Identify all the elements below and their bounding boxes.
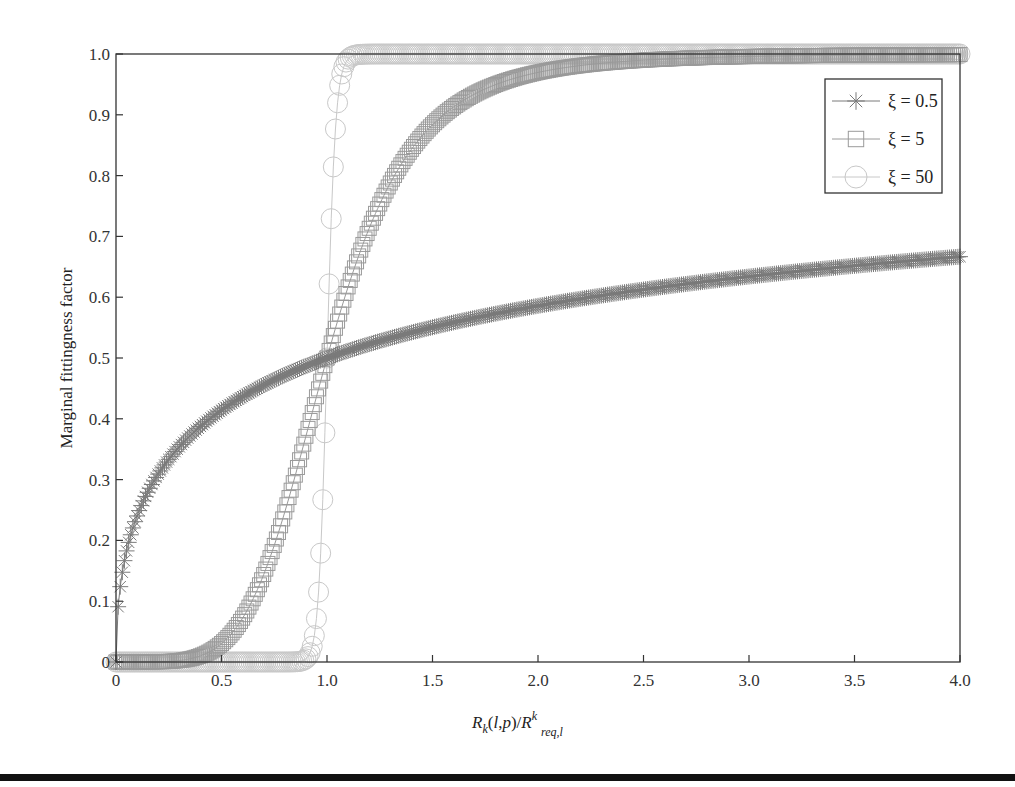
data-point-asterisk [123,527,139,543]
x-axis-title: Rk(l,p)/Rkreq,l [471,709,564,739]
series-xi-0_5 [108,249,968,670]
series-line [116,257,960,662]
x-tick-label: 0 [112,671,121,690]
x-tick-label: 3.5 [844,671,865,690]
x-tick-label: 4.0 [949,671,970,690]
y-axis-title: Marginal fittingness factor [57,267,76,448]
data-point-asterisk [228,392,244,408]
data-point-asterisk [112,579,128,595]
y-tick-label: 0.9 [89,106,110,125]
y-tick-label: 0.1 [89,592,110,611]
y-tick-label: 0.2 [89,531,110,550]
data-point-asterisk [230,391,246,407]
y-tick-label: 0.5 [89,349,110,368]
legend: ξ = 0.5ξ = 5ξ = 50 [825,79,942,193]
legend-label: ξ = 5 [888,129,924,149]
x-tick-label: 3.0 [738,671,759,690]
y-tick-label: 0.3 [89,471,110,490]
y-tick-label: 0.6 [89,288,110,307]
x-title-sup-k: k [532,709,538,723]
x-title-paren-close: )/ [511,713,522,732]
y-tick-label: 0.8 [89,167,110,186]
data-point-asterisk [135,493,151,509]
legend-label: ξ = 50 [888,167,933,187]
x-title-sub-req: req,l [541,725,564,739]
data-point-asterisk [114,564,130,580]
x-tick-label: 2.0 [527,671,548,690]
x-tick-label: 2.5 [633,671,654,690]
y-tick-label: 0.7 [89,227,111,246]
x-title-p: p [501,713,511,732]
y-tick-label: 1.0 [89,45,110,64]
x-tick-label: 1.0 [316,671,337,690]
chart: 00.51.01.52.02.53.03.54.000.10.20.30.40.… [0,0,1015,787]
x-tick-label: 0.5 [211,671,232,690]
x-title-r1: R [471,713,483,732]
x-tick-label: 1.5 [422,671,443,690]
legend-label: ξ = 0.5 [888,91,938,111]
y-tick-label: 0.4 [89,410,111,429]
bottom-rule [0,774,1015,781]
x-title-r2: R [520,713,532,732]
data-point-asterisk [125,520,141,536]
y-tick-label: 0 [102,653,111,672]
legend-marker-asterisk [847,92,865,110]
